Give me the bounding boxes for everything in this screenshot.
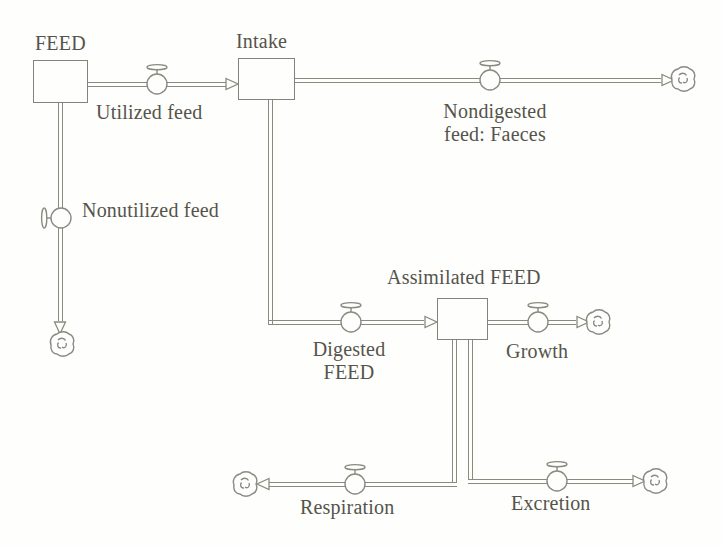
valve-respiration-icon bbox=[343, 463, 367, 495]
stock-assimilated-feed-label: Assimilated FEED bbox=[387, 266, 541, 289]
arrowhead-into-assimilated-feed bbox=[424, 315, 438, 329]
pipe-respiration-vertical bbox=[452, 340, 457, 482]
valve-digested-feed-icon bbox=[339, 301, 363, 333]
cloud-sink-faeces-icon bbox=[669, 65, 697, 93]
flow-respiration-label: Respiration bbox=[300, 496, 394, 519]
valve-growth-icon bbox=[526, 301, 550, 333]
flow-growth-label: Growth bbox=[506, 340, 568, 363]
valve-nondigested-feed-icon bbox=[478, 59, 502, 91]
pipe-excretion-vertical bbox=[468, 340, 473, 479]
stock-intake-label: Intake bbox=[236, 30, 287, 53]
cloud-sink-respiration-icon bbox=[231, 470, 259, 498]
stock-flow-diagram: FEED Intake Assimilated FEED Utilized fe… bbox=[0, 0, 724, 547]
cloud-sink-growth-icon bbox=[584, 308, 612, 336]
flow-digested-feed-label: Digested FEED bbox=[296, 338, 402, 384]
arrowhead-into-intake bbox=[225, 77, 239, 91]
valve-utilized-feed-icon bbox=[145, 63, 169, 95]
stock-feed-label: FEED bbox=[35, 32, 86, 55]
pipe-digested-feed-vertical bbox=[268, 100, 273, 325]
flow-utilized-feed-label: Utilized feed bbox=[96, 101, 202, 124]
stock-intake-box bbox=[238, 58, 295, 100]
flow-nondigested-feed-label: Nondigested feed: Faeces bbox=[428, 100, 562, 146]
stock-feed-box bbox=[33, 60, 88, 103]
stock-assimilated-feed-box bbox=[437, 298, 488, 340]
cloud-sink-nonutilized-icon bbox=[48, 330, 76, 358]
valve-excretion-icon bbox=[545, 460, 569, 492]
valve-nonutilized-feed-icon bbox=[40, 206, 72, 230]
flow-excretion-label: Excretion bbox=[511, 492, 591, 515]
cloud-sink-excretion-icon bbox=[641, 467, 669, 495]
flow-nonutilized-feed-label: Nonutilized feed bbox=[82, 199, 219, 222]
